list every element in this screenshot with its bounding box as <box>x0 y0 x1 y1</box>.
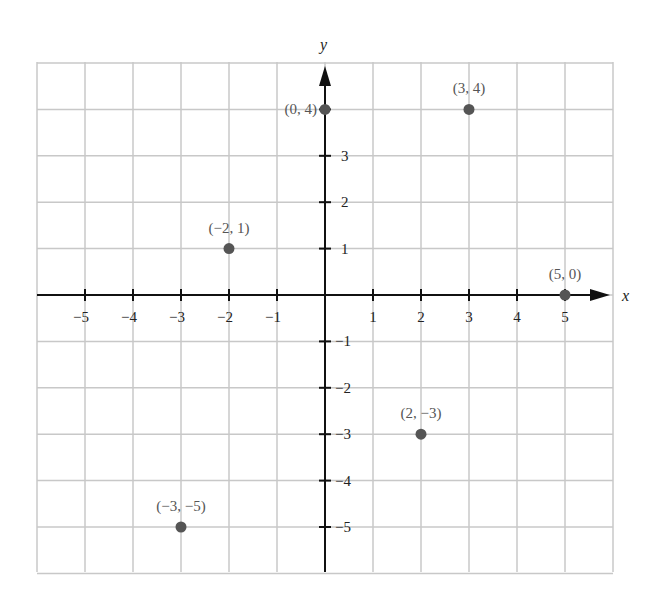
x-tick-label: −3 <box>169 309 185 325</box>
data-point-label: (−2, 1) <box>209 220 250 237</box>
y-tick-label: −1 <box>335 333 351 349</box>
x-tick-label: −4 <box>121 309 137 325</box>
data-point-label: (−3, −5) <box>156 498 205 515</box>
data-point <box>176 522 187 533</box>
data-point <box>224 243 235 254</box>
y-tick-label: −3 <box>335 426 351 442</box>
y-tick-label: −5 <box>335 519 351 535</box>
y-tick-label: 1 <box>341 241 349 257</box>
y-axis-arrow-icon <box>319 66 331 86</box>
data-point <box>464 104 475 115</box>
data-point <box>560 290 571 301</box>
x-tick-label: 4 <box>513 309 521 325</box>
x-axis-label: x <box>621 287 629 304</box>
axis-ticks: −5−4−3−2−112345−5−4−3−2−1123 <box>73 109 569 535</box>
y-tick-label: 3 <box>341 148 349 164</box>
x-tick-label: −1 <box>265 309 281 325</box>
y-axis-label: y <box>318 36 328 54</box>
y-tick-label: −4 <box>335 473 351 489</box>
data-point-label: (3, 4) <box>453 80 486 97</box>
x-tick-label: 5 <box>561 309 569 325</box>
x-tick-label: −2 <box>217 309 233 325</box>
data-point-label: (0, 4) <box>285 101 318 118</box>
y-tick-label: −2 <box>335 380 351 396</box>
x-tick-label: 3 <box>465 309 473 325</box>
x-tick-label: 1 <box>369 309 377 325</box>
data-point <box>320 104 331 115</box>
data-point-label: (2, −3) <box>401 405 442 422</box>
x-axis-arrow-icon <box>590 289 610 301</box>
data-point-label: (5, 0) <box>549 266 582 283</box>
data-point <box>416 429 427 440</box>
y-tick-label: 2 <box>341 194 349 210</box>
x-tick-label: −5 <box>73 309 89 325</box>
x-tick-label: 2 <box>417 309 425 325</box>
coordinate-plane: −5−4−3−2−112345−5−4−3−2−1123 (0, 4)(3, 4… <box>0 0 660 601</box>
